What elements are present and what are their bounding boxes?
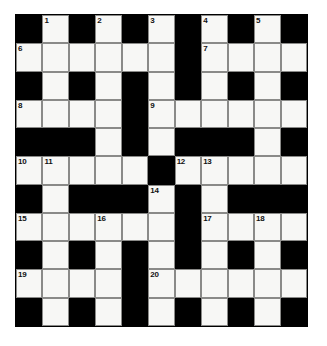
crossword-cell-open[interactable]: 18 <box>254 213 280 241</box>
crossword-cell-open[interactable] <box>228 269 254 297</box>
crossword-cell-open[interactable] <box>201 185 227 213</box>
crossword-cell-open[interactable] <box>254 72 280 100</box>
crossword-cell-open[interactable]: 16 <box>95 213 121 241</box>
crossword-cell-open[interactable] <box>42 100 68 128</box>
crossword-cell-open[interactable] <box>69 269 95 297</box>
crossword-cell-block <box>95 185 121 213</box>
crossword-cell-open[interactable]: 13 <box>201 156 227 184</box>
crossword-cell-open[interactable] <box>281 213 307 241</box>
crossword-cell-open[interactable] <box>95 298 121 326</box>
crossword-cell-open[interactable] <box>148 213 174 241</box>
crossword-cell-block <box>175 213 201 241</box>
crossword-cell-open[interactable] <box>42 269 68 297</box>
cell-number: 1 <box>44 16 48 25</box>
crossword-cell-block <box>16 128 42 156</box>
crossword-cell-open[interactable]: 1 <box>42 15 68 43</box>
crossword-cell-open[interactable]: 10 <box>16 156 42 184</box>
crossword-cell-open[interactable] <box>254 128 280 156</box>
crossword-cell-open[interactable] <box>254 100 280 128</box>
crossword-cell-open[interactable] <box>95 100 121 128</box>
crossword-cell-open[interactable] <box>281 269 307 297</box>
crossword-cell-open[interactable]: 14 <box>148 185 174 213</box>
crossword-cell-block <box>16 72 42 100</box>
crossword-cell-open[interactable] <box>95 128 121 156</box>
crossword-cell-open[interactable] <box>69 156 95 184</box>
crossword-cell-open[interactable] <box>254 298 280 326</box>
crossword-cell-open[interactable] <box>201 100 227 128</box>
crossword-cell-open[interactable]: 19 <box>16 269 42 297</box>
crossword-cell-open[interactable] <box>254 43 280 71</box>
crossword-cell-open[interactable] <box>281 156 307 184</box>
crossword-cell-open[interactable]: 11 <box>42 156 68 184</box>
crossword-cell-open[interactable] <box>122 43 148 71</box>
crossword-cell-open[interactable] <box>42 241 68 269</box>
crossword-cell-open[interactable]: 7 <box>201 43 227 71</box>
crossword-cell-open[interactable] <box>228 100 254 128</box>
crossword-cell-block <box>122 72 148 100</box>
crossword-cell-block <box>175 185 201 213</box>
crossword-cell-block <box>281 241 307 269</box>
crossword-cell-open[interactable] <box>122 156 148 184</box>
crossword-cell-open[interactable] <box>281 43 307 71</box>
crossword-cell-open[interactable] <box>69 213 95 241</box>
crossword-cell-open[interactable]: 2 <box>95 15 121 43</box>
crossword-cell-open[interactable]: 17 <box>201 213 227 241</box>
crossword-grid[interactable]: 1234567891011121314151617181920 <box>15 14 308 327</box>
crossword-cell-open[interactable] <box>201 269 227 297</box>
crossword-cell-open[interactable] <box>228 43 254 71</box>
crossword-cell-open[interactable] <box>281 100 307 128</box>
crossword-cell-open[interactable]: 3 <box>148 15 174 43</box>
crossword-cell-open[interactable] <box>42 185 68 213</box>
crossword-cell-block <box>228 185 254 213</box>
crossword-cell-open[interactable] <box>95 269 121 297</box>
crossword-cell-open[interactable]: 8 <box>16 100 42 128</box>
cell-number: 9 <box>150 101 154 110</box>
crossword-cell-open[interactable] <box>148 43 174 71</box>
crossword-cell-open[interactable] <box>69 100 95 128</box>
crossword-cell-open[interactable] <box>254 269 280 297</box>
crossword-cell-block <box>228 15 254 43</box>
crossword-cell-open[interactable] <box>201 241 227 269</box>
crossword-cell-open[interactable] <box>148 241 174 269</box>
crossword-cell-open[interactable] <box>148 72 174 100</box>
crossword-cell-open[interactable] <box>95 43 121 71</box>
crossword-cell-open[interactable] <box>148 128 174 156</box>
crossword-cell-open[interactable] <box>95 156 121 184</box>
crossword-cell-open[interactable]: 12 <box>175 156 201 184</box>
crossword-cell-open[interactable] <box>122 213 148 241</box>
crossword-cell-open[interactable]: 5 <box>254 15 280 43</box>
crossword-cell-block <box>42 128 68 156</box>
crossword-cell-open[interactable] <box>95 241 121 269</box>
crossword-cell-open[interactable]: 9 <box>148 100 174 128</box>
crossword-cell-open[interactable] <box>42 213 68 241</box>
crossword-cell-open[interactable] <box>254 241 280 269</box>
crossword-cell-open[interactable] <box>69 43 95 71</box>
cell-number: 10 <box>18 157 26 166</box>
crossword-cell-open[interactable] <box>42 298 68 326</box>
cell-number: 11 <box>44 157 52 166</box>
crossword-cell-open[interactable]: 6 <box>16 43 42 71</box>
crossword-cell-block <box>281 128 307 156</box>
crossword-cell-open[interactable] <box>175 100 201 128</box>
crossword-cell-open[interactable]: 4 <box>201 15 227 43</box>
crossword-cell-open[interactable] <box>254 156 280 184</box>
crossword-cell-open[interactable] <box>95 72 121 100</box>
crossword-cell-open[interactable] <box>42 72 68 100</box>
crossword-cell-open[interactable] <box>201 72 227 100</box>
crossword-cell-block <box>281 185 307 213</box>
crossword-cell-block <box>175 15 201 43</box>
crossword-cell-open[interactable] <box>228 213 254 241</box>
crossword-cell-block <box>175 72 201 100</box>
crossword-cell-open[interactable] <box>228 156 254 184</box>
crossword-cell-open[interactable] <box>148 298 174 326</box>
crossword-cell-block <box>148 156 174 184</box>
crossword-cell-open[interactable] <box>201 298 227 326</box>
crossword-cell-open[interactable] <box>42 43 68 71</box>
crossword-cell-open[interactable]: 15 <box>16 213 42 241</box>
cell-number: 20 <box>150 270 158 279</box>
crossword-cell-block <box>122 128 148 156</box>
crossword-cell-open[interactable] <box>175 269 201 297</box>
crossword-cell-open[interactable]: 20 <box>148 269 174 297</box>
crossword-cell-block <box>69 128 95 156</box>
crossword-cell-block <box>175 128 201 156</box>
